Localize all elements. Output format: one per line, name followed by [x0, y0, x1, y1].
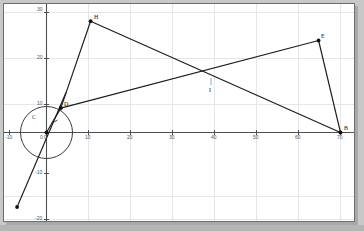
graphics-view-frame[interactable]: -10 0 10 20 30 40 50 60 70 30 20 10 0 -1… [3, 3, 355, 222]
point-label-I: I [209, 87, 211, 93]
point-label-B: B [344, 125, 348, 131]
point-label-H: H [94, 14, 98, 20]
y-tick-label-0: 0 [40, 135, 43, 140]
x-tick-label-0: 0 [44, 135, 47, 140]
y-tick-label-10: 10 [37, 101, 43, 106]
point-D [59, 106, 63, 110]
segment-H-B [91, 21, 341, 132]
y-tick-label--10: -10 [35, 170, 42, 175]
plot-svg [4, 4, 354, 221]
point-H [89, 19, 93, 23]
x-tick-label-50: 50 [253, 135, 259, 140]
x-tick-label-40: 40 [211, 135, 217, 140]
graphics-view-canvas[interactable]: -10 0 10 20 30 40 50 60 70 30 20 10 0 -1… [4, 4, 354, 221]
point-label-E: E [321, 33, 325, 39]
segment-D-E [61, 41, 319, 109]
x-tick-label-30: 30 [169, 135, 175, 140]
point-E [317, 39, 321, 43]
y-tick-label--20: -20 [35, 216, 42, 221]
radius-arrow-marker [52, 119, 58, 124]
point-F [15, 205, 19, 209]
segments [17, 21, 340, 207]
y-tick-label-30: 30 [37, 7, 43, 12]
segment-E-B [319, 41, 341, 133]
x-tick-label--10: -10 [5, 135, 12, 140]
segment-F-D [17, 93, 66, 208]
x-tick-label-20: 20 [127, 135, 133, 140]
x-tick-label-70: 70 [337, 135, 343, 140]
screenshot-root: -10 0 10 20 30 40 50 60 70 30 20 10 0 -1… [0, 0, 364, 231]
circle-label-c: C [32, 114, 36, 120]
x-tick-label-10: 10 [85, 135, 91, 140]
point-label-D: D [64, 101, 68, 107]
window-bottom-edge [0, 225, 364, 231]
x-tick-label-60: 60 [295, 135, 301, 140]
y-tick-label-20: 20 [37, 55, 43, 60]
